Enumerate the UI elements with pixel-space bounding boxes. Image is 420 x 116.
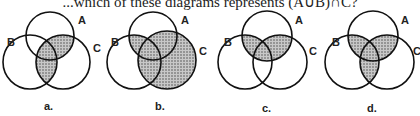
diagram-label: b.: [155, 100, 165, 112]
set-label-b: B: [224, 36, 232, 48]
set-label-b: B: [7, 36, 15, 48]
set-label-c: C: [413, 45, 420, 57]
diagram-b[interactable]: A B C b.: [107, 12, 207, 112]
diagram-d[interactable]: A B C d.: [325, 11, 420, 114]
diagram-label: a.: [44, 100, 53, 112]
set-label-c: C: [309, 45, 317, 57]
diagram-c[interactable]: A B C c.: [218, 11, 317, 114]
venn-diagrams: A B C a. A B C b. A B C c.: [0, 0, 420, 116]
set-label-a: A: [401, 14, 409, 26]
diagram-a[interactable]: A B C a.: [3, 12, 101, 112]
set-label-a: A: [181, 14, 189, 26]
set-label-a: A: [295, 14, 303, 26]
diagram-label: c.: [262, 102, 271, 114]
set-label-b: B: [111, 36, 119, 48]
set-label-a: A: [78, 14, 86, 26]
diagram-label: d.: [367, 102, 377, 114]
set-label-c: C: [93, 42, 101, 54]
set-label-c: C: [199, 45, 207, 57]
set-label-b: B: [332, 36, 340, 48]
